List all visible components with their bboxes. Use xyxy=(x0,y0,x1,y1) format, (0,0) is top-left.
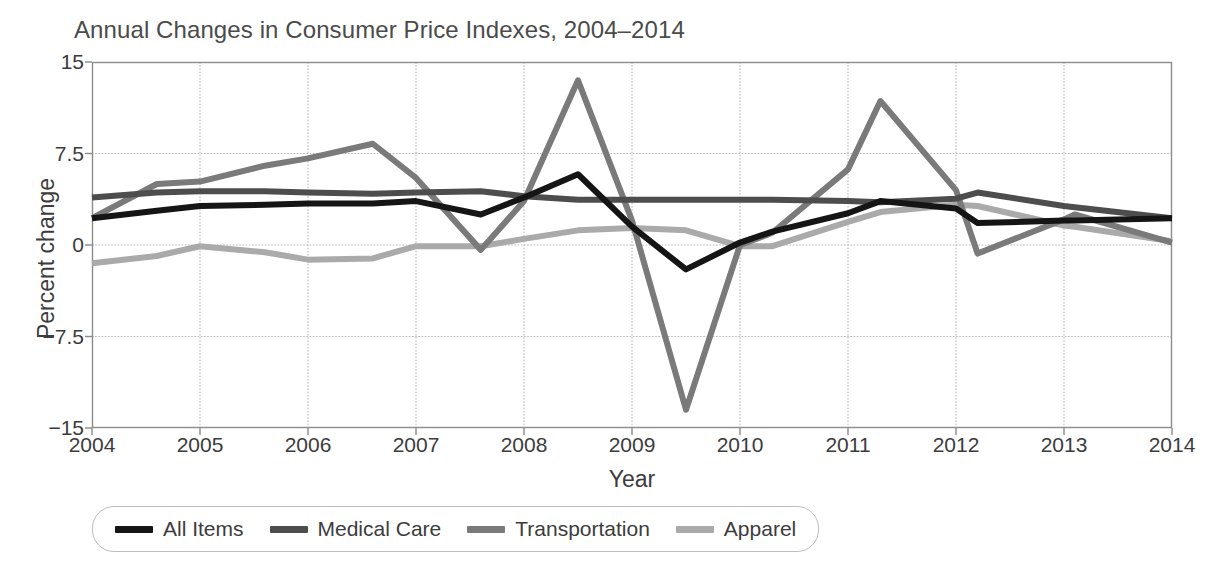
legend-swatch-icon xyxy=(676,526,714,533)
x-tick-label: 2007 xyxy=(371,434,461,455)
y-tick-label: −7.5 xyxy=(4,326,84,347)
legend-item-all-items[interactable]: All Items xyxy=(115,517,244,541)
legend-item-label: Transportation xyxy=(515,517,650,541)
x-tick-label: 2012 xyxy=(911,434,1001,455)
chart-legend: All ItemsMedical CareTransportationAppar… xyxy=(92,506,819,552)
legend-swatch-icon xyxy=(115,526,153,533)
legend-item-transportation[interactable]: Transportation xyxy=(467,517,650,541)
x-axis-tick-labels: 2004200520062007200820092010201120122013… xyxy=(92,434,1172,464)
chart-title: Annual Changes in Consumer Price Indexes… xyxy=(74,16,685,44)
x-tick-label: 2006 xyxy=(263,434,353,455)
legend-item-apparel[interactable]: Apparel xyxy=(676,517,796,541)
legend-item-label: All Items xyxy=(163,517,244,541)
legend-item-label: Apparel xyxy=(724,517,796,541)
x-axis-title: Year xyxy=(92,466,1172,493)
legend-swatch-icon xyxy=(270,526,308,533)
x-tick-label: 2005 xyxy=(155,434,245,455)
legend-item-medical-care[interactable]: Medical Care xyxy=(270,517,442,541)
x-tick-label: 2009 xyxy=(587,434,677,455)
gridlines xyxy=(92,62,1172,428)
y-axis-tick-labels: 157.50−7.5−15 xyxy=(0,62,84,428)
x-tick-label: 2004 xyxy=(47,434,137,455)
y-tick-label: 15 xyxy=(4,51,84,72)
x-tick-label: 2011 xyxy=(803,434,893,455)
legend-swatch-icon xyxy=(467,526,505,533)
chart-figure: Annual Changes in Consumer Price Indexes… xyxy=(0,0,1206,582)
x-tick-label: 2010 xyxy=(695,434,785,455)
plot-area xyxy=(92,62,1172,428)
x-tick-label: 2014 xyxy=(1127,434,1206,455)
y-tick-label: 7.5 xyxy=(4,143,84,164)
legend-item-label: Medical Care xyxy=(318,517,442,541)
x-tick-label: 2013 xyxy=(1019,434,1109,455)
y-tick-label: 0 xyxy=(4,234,84,255)
chart-plot-svg xyxy=(92,62,1172,428)
x-tick-label: 2008 xyxy=(479,434,569,455)
